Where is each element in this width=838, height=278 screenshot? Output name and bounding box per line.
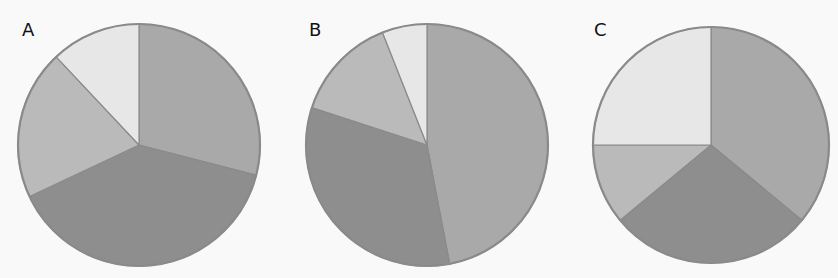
- pie-slice-1: [427, 24, 548, 264]
- pie-panel-a: A: [0, 0, 280, 278]
- pie-panel-b: B: [288, 0, 568, 278]
- pie-panel-c: C: [572, 0, 838, 278]
- pie-chart-a: [0, 0, 280, 278]
- pie-chart-c: [572, 0, 838, 278]
- pie-chart-b: [288, 0, 568, 278]
- pie-slice-4: [593, 27, 711, 145]
